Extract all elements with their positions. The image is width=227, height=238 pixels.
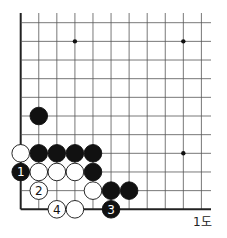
black-stone	[66, 145, 84, 163]
black-stone	[120, 182, 138, 200]
white-stone	[66, 163, 84, 181]
move-number-label: 4	[53, 203, 61, 217]
star-point	[181, 151, 185, 155]
black-stone	[48, 145, 66, 163]
black-stone: 1	[12, 163, 30, 181]
diagram-caption: 1도	[193, 212, 212, 229]
black-stone	[30, 145, 48, 163]
black-stone	[102, 182, 120, 200]
black-stone	[30, 107, 48, 125]
move-number-label: 2	[35, 184, 43, 198]
white-stone: 2	[30, 182, 48, 200]
star-point	[181, 39, 185, 43]
white-stone	[48, 163, 66, 181]
white-stone	[12, 145, 30, 163]
star-point	[73, 39, 77, 43]
white-stone	[84, 182, 102, 200]
white-stone	[30, 163, 48, 181]
white-stone: 4	[48, 201, 66, 219]
black-stone	[84, 145, 102, 163]
go-board: 1243	[0, 0, 227, 238]
white-stone	[66, 201, 84, 219]
black-stone	[84, 163, 102, 181]
black-stone: 3	[102, 201, 120, 219]
move-number-label: 3	[107, 203, 115, 217]
move-number-label: 1	[17, 165, 25, 179]
